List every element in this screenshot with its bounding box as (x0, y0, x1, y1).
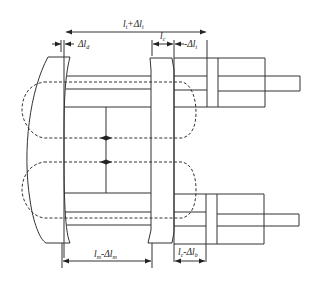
dimension-lines (52, 32, 206, 261)
label-bottom-right: lc-Δlb (178, 247, 198, 258)
label-top-total: lt+Δlt (123, 19, 144, 30)
lower-dashed-outline (22, 162, 196, 218)
label-mid-gap: lc (160, 31, 166, 42)
middle-plate (148, 40, 174, 262)
label-left-delta: Δld (77, 39, 90, 50)
upper-cylinder (174, 40, 300, 107)
label-bottom-left: lm-Δlm (94, 249, 117, 260)
lower-rods (64, 193, 151, 225)
upper-dashed-outline (22, 82, 196, 138)
label-right-delta: -Δlt (184, 39, 197, 50)
upper-rods (65, 76, 151, 107)
mechanical-diagram: lt+Δlt Δld lc -Δlt lm-Δlm lc-Δlb (0, 0, 318, 281)
left-plate (27, 40, 70, 258)
